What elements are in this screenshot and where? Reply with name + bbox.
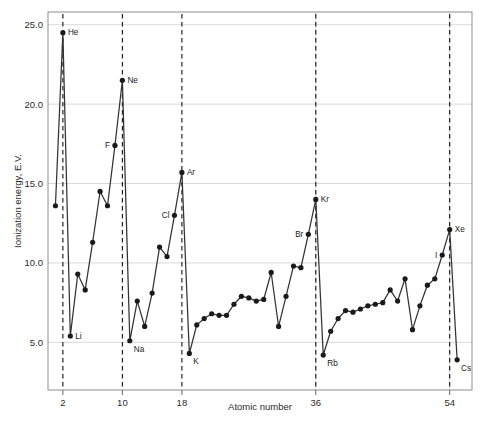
- data-point: [365, 303, 370, 308]
- data-point: [269, 270, 274, 275]
- data-point: [135, 298, 140, 303]
- data-point: [313, 197, 318, 202]
- data-point: [202, 316, 207, 321]
- data-point: [455, 357, 460, 362]
- element-label: Ne: [127, 76, 138, 85]
- data-point: [75, 271, 80, 276]
- x-tick-label: 2: [60, 397, 65, 408]
- data-point: [68, 333, 73, 338]
- data-point: [157, 244, 162, 249]
- y-axis-title: Ionization energy, E.V.: [12, 154, 23, 248]
- y-tick-label: 20.0: [25, 99, 44, 110]
- data-point: [164, 254, 169, 259]
- data-point: [216, 313, 221, 318]
- data-point: [447, 227, 452, 232]
- element-label: He: [68, 28, 79, 37]
- element-label: Li: [75, 332, 82, 341]
- data-point: [150, 291, 155, 296]
- data-point: [254, 298, 259, 303]
- data-point: [402, 276, 407, 281]
- data-point: [105, 203, 110, 208]
- y-tick-label: 15.0: [25, 178, 44, 189]
- y-tick-label: 10.0: [25, 257, 44, 268]
- data-point: [373, 302, 378, 307]
- x-tick-label: 10: [117, 397, 128, 408]
- x-tick-label: 18: [177, 397, 188, 408]
- data-point: [350, 310, 355, 315]
- data-point: [90, 240, 95, 245]
- data-point: [187, 351, 192, 356]
- data-point: [261, 297, 266, 302]
- data-point: [276, 324, 281, 329]
- element-label: Kr: [321, 195, 329, 204]
- element-label: Rb: [327, 359, 338, 368]
- data-point: [83, 287, 88, 292]
- element-label: K: [193, 357, 199, 366]
- data-point: [127, 338, 132, 343]
- element-label: Na: [134, 345, 145, 354]
- data-point: [179, 170, 184, 175]
- element-label: Cs: [461, 364, 471, 373]
- data-point: [231, 302, 236, 307]
- y-tick-label: 5.0: [30, 337, 43, 348]
- data-point: [410, 327, 415, 332]
- data-point: [417, 303, 422, 308]
- data-point: [120, 78, 125, 83]
- x-tick-label: 36: [311, 397, 322, 408]
- data-point: [380, 300, 385, 305]
- data-point: [112, 143, 117, 148]
- data-point: [209, 311, 214, 316]
- data-point: [358, 306, 363, 311]
- data-point: [283, 294, 288, 299]
- y-tick-label: 25.0: [25, 19, 44, 30]
- data-point: [97, 189, 102, 194]
- data-point: [224, 313, 229, 318]
- data-point: [291, 264, 296, 269]
- ionization-energy-chart: 5.010.015.020.025.0 210183654 HeLiFNeNaC…: [0, 0, 486, 426]
- data-point: [172, 213, 177, 218]
- data-point: [306, 232, 311, 237]
- data-point: [239, 294, 244, 299]
- data-point: [142, 324, 147, 329]
- data-point: [343, 308, 348, 313]
- element-label: Ar: [187, 168, 195, 177]
- data-point: [53, 203, 58, 208]
- data-point: [440, 252, 445, 257]
- x-tick-label: 54: [444, 397, 455, 408]
- element-label: I: [435, 251, 437, 260]
- data-point: [336, 316, 341, 321]
- element-label: Cl: [162, 211, 170, 220]
- chart-background: [0, 0, 486, 426]
- element-label: Br: [295, 230, 303, 239]
- element-label: F: [105, 141, 110, 150]
- element-label: Xe: [455, 225, 465, 234]
- data-point: [60, 30, 65, 35]
- data-point: [194, 322, 199, 327]
- data-point: [395, 298, 400, 303]
- data-point: [321, 352, 326, 357]
- data-point: [388, 287, 393, 292]
- data-point: [246, 295, 251, 300]
- data-point: [298, 265, 303, 270]
- x-axis-title: Atomic number: [228, 401, 292, 412]
- data-point: [432, 276, 437, 281]
- data-point: [425, 283, 430, 288]
- data-point: [328, 329, 333, 334]
